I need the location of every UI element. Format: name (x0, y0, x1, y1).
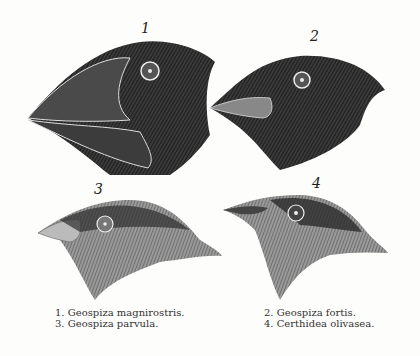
figure-number-4: 4 (312, 175, 321, 191)
caption-item-4: 4. Certhidea olivasea. (264, 318, 374, 329)
finch-heads-illustration (0, 0, 420, 356)
bird-1-head (28, 41, 215, 175)
figure-number-1: 1 (141, 20, 150, 36)
bird-4-head (223, 195, 388, 300)
figure-number-3: 3 (94, 181, 103, 197)
caption-item-2: 2. Geospiza fortis. (264, 307, 374, 318)
caption-item-1: 1. Geospiza magnirostris. (55, 307, 185, 318)
caption-item-3: 3. Geospiza parvula. (55, 318, 185, 329)
bird-3-head (38, 200, 222, 300)
figure-number-2: 2 (310, 28, 319, 44)
finch-engraving-plate: 1 2 3 4 1. Geospiza magnirostris. 3. Geo… (0, 0, 420, 356)
caption-right: 2. Geospiza fortis. 4. Certhidea olivase… (264, 307, 374, 329)
bird-2-head (210, 56, 385, 170)
caption-left: 1. Geospiza magnirostris. 3. Geospiza pa… (55, 307, 185, 329)
